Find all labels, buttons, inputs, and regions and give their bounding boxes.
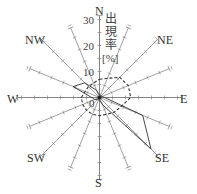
direction-label-nw: NW (25, 34, 45, 46)
axis-label-char-3: 率 (104, 39, 118, 52)
axis-label-unit: [%] (102, 52, 118, 65)
direction-label-s: S (95, 177, 102, 189)
direction-label-w: W (7, 93, 18, 105)
tick-label-20: 20 (83, 41, 94, 52)
tick-label-10: 10 (83, 67, 94, 78)
tick-label-30: 30 (83, 15, 94, 26)
direction-label-se: SE (155, 152, 169, 164)
tick-label-0: 0 (89, 98, 95, 109)
direction-label-e: E (180, 93, 187, 105)
axis-label: 出 現 率 [%] (104, 13, 118, 65)
direction-label-n: N (95, 5, 104, 17)
direction-label-sw: SW (27, 152, 45, 164)
direction-label-ne: NE (157, 34, 173, 46)
